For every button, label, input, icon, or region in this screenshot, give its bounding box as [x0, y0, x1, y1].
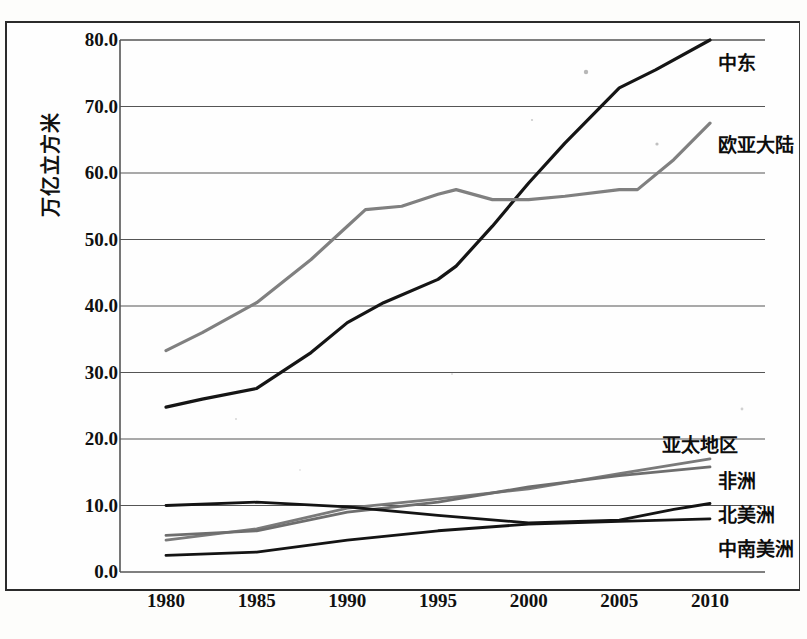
x-tick-1985: 1985 — [217, 590, 297, 612]
y-tick-30.0: 30.0 — [46, 363, 118, 382]
y-tick-10.0: 10.0 — [46, 496, 118, 515]
x-tick-1995: 1995 — [398, 590, 478, 612]
x-tick-1980: 1980 — [126, 590, 206, 612]
y-tick-80.0: 80.0 — [46, 30, 118, 49]
scan-frame — [5, 21, 800, 591]
series-label-3: 非洲 — [718, 466, 756, 493]
x-tick-1990: 1990 — [307, 590, 387, 612]
y-tick-40.0: 40.0 — [46, 296, 118, 315]
chart-page: 万亿立方米 0.010.020.030.040.050.060.070.080.… — [0, 0, 807, 639]
y-tick-0.0: 0.0 — [46, 562, 118, 581]
series-label-5: 中南美洲 — [718, 534, 794, 561]
x-axis-tick-labels: 1980198519901995200020052010 — [0, 586, 807, 620]
y-tick-20.0: 20.0 — [46, 429, 118, 448]
y-tick-60.0: 60.0 — [46, 163, 118, 182]
y-axis-tick-labels: 0.010.020.030.040.050.060.070.080.0 — [22, 0, 118, 639]
x-tick-2010: 2010 — [670, 590, 750, 612]
series-label-1: 欧亚大陆 — [718, 130, 794, 157]
series-label-4: 北美洲 — [718, 500, 775, 527]
series-label-0: 中东 — [718, 48, 756, 75]
y-tick-70.0: 70.0 — [46, 97, 118, 116]
x-tick-2000: 2000 — [489, 590, 569, 612]
x-tick-2005: 2005 — [579, 590, 659, 612]
series-label-2: 亚太地区 — [662, 430, 738, 457]
y-tick-50.0: 50.0 — [46, 230, 118, 249]
